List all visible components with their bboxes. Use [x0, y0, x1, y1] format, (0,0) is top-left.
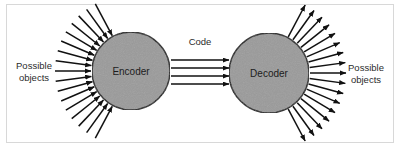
right-possible-objects-label: Possible — [348, 62, 384, 73]
arrow — [297, 103, 322, 129]
arrow — [87, 9, 108, 38]
arrow — [288, 5, 305, 37]
arrow — [310, 79, 346, 84]
arrow — [95, 106, 112, 138]
right-possible-objects-label-line2: objects — [351, 74, 381, 85]
diagram-canvas: Encoder Decoder Code Possible objects Po… — [0, 0, 400, 147]
arrow — [56, 76, 92, 81]
arrow — [288, 109, 305, 141]
arrow — [301, 25, 329, 48]
left-possible-objects-label-line2: objects — [19, 72, 49, 83]
code-channel-arrows — [171, 60, 229, 84]
arrow — [304, 33, 335, 52]
arrow — [297, 17, 322, 43]
arrow — [87, 103, 108, 132]
arrow — [293, 106, 314, 135]
arrow — [95, 4, 112, 36]
left-possible-objects-label: Possible — [16, 60, 52, 71]
arrow — [66, 92, 97, 111]
arrow — [56, 61, 92, 66]
arrow — [310, 63, 346, 68]
code-label: Code — [189, 36, 212, 47]
arrow — [293, 11, 314, 40]
decoder-node-label: Decoder — [250, 68, 288, 79]
arrow — [304, 94, 335, 113]
arrow — [301, 99, 329, 122]
encoder-node-label: Encoder — [112, 66, 150, 77]
encoder-decoder-diagram: Encoder Decoder Code Possible objects Po… — [0, 0, 400, 147]
arrow — [66, 32, 97, 51]
